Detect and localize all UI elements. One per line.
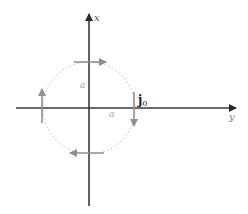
current-density-label: j0	[137, 93, 147, 108]
radius-label-horizontal: a	[109, 109, 114, 119]
y-axis-label: y	[228, 111, 235, 122]
diagram-canvas: x y a a j0	[0, 0, 248, 214]
current-density-subscript: 0	[142, 99, 147, 108]
x-axis-label: x	[94, 12, 100, 23]
radius-label-vertical: a	[80, 80, 85, 90]
